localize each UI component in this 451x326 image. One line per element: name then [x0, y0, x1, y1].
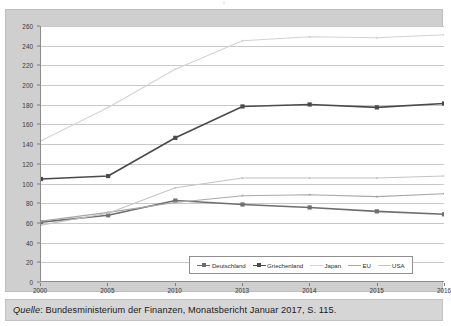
- series-marker: [443, 34, 444, 36]
- series-marker: [41, 177, 43, 181]
- legend-label: USA: [392, 262, 405, 269]
- x-axis-tick-label: 2014: [302, 287, 316, 294]
- caption-source-label: Quelle: [13, 305, 40, 315]
- series-marker: [107, 107, 109, 109]
- series-marker: [376, 177, 378, 179]
- plot-area: [40, 26, 444, 282]
- x-axis-tick-mark: [309, 283, 310, 286]
- x-axis-tick-label: 2000: [33, 287, 47, 294]
- y-axis-tick-label: 160: [22, 121, 33, 128]
- x-axis-tick-mark: [107, 283, 108, 286]
- series-marker: [240, 202, 244, 206]
- y-axis-tick-label: 240: [22, 42, 33, 49]
- y-axis-tick-label: 60: [26, 219, 33, 226]
- y-axis-tick-label: 100: [22, 180, 33, 187]
- y-axis-tick-label: 180: [22, 101, 33, 108]
- chart-legend[interactable]: DeutschlandGriechenlandJapanEUUSA: [189, 256, 413, 274]
- legend-item-eu[interactable]: EU: [348, 262, 371, 269]
- series-marker: [442, 212, 444, 216]
- y-axis-tick-label: 0: [29, 279, 33, 286]
- caption-text: Quelle: Bundesministerium der Finanzen, …: [6, 305, 336, 315]
- x-axis-tick-label: 2010: [168, 287, 182, 294]
- series-marker: [173, 136, 177, 140]
- figure-panel: Staatsschuldenquoten in % 02040608010012…: [5, 9, 443, 292]
- caption-strip: Quelle: Bundesministerium der Finanzen, …: [5, 299, 443, 321]
- x-axis-tick-label: 2015: [370, 287, 384, 294]
- series-marker: [442, 101, 444, 105]
- series-marker: [242, 177, 244, 179]
- series-marker: [174, 202, 176, 204]
- y-axis-tick-label: 200: [22, 82, 33, 89]
- series-usa: [41, 175, 444, 226]
- top-tick-mark: [224, 1, 225, 5]
- series-marker: [106, 174, 110, 178]
- legend-item-usa[interactable]: USA: [378, 262, 405, 269]
- series-griechenland: [41, 101, 444, 181]
- x-axis-tick-mark: [242, 283, 243, 286]
- legend-item-japan[interactable]: Japan: [310, 262, 341, 269]
- series-marker: [41, 224, 42, 226]
- series-line: [41, 176, 444, 225]
- x-axis-tick-mark: [40, 283, 41, 286]
- legend-item-griechenland[interactable]: Griechenland: [253, 262, 304, 269]
- series-line: [41, 35, 444, 141]
- y-axis-tick-label: 220: [22, 62, 33, 69]
- y-axis-tick-label: 20: [26, 259, 33, 266]
- series-deutschland: [41, 198, 444, 224]
- legend-swatch-icon: [378, 262, 391, 269]
- series-line: [41, 103, 444, 179]
- y-axis-tick-label: 80: [26, 200, 33, 207]
- x-axis-tick-label: 2016: [437, 287, 451, 294]
- series-layer: [41, 26, 444, 281]
- series-marker: [308, 205, 312, 209]
- series-marker: [41, 140, 42, 142]
- legend-swatch-icon: [310, 262, 323, 269]
- series-marker: [240, 104, 244, 108]
- y-axis-tick-label: 120: [22, 160, 33, 167]
- legend-label: Deutschland: [212, 262, 246, 269]
- series-marker: [443, 175, 444, 177]
- legend-swatch-icon: [197, 262, 210, 269]
- x-axis-tick-mark: [444, 283, 445, 286]
- legend-label: Griechenland: [267, 262, 303, 269]
- series-marker: [309, 194, 311, 196]
- series-marker: [443, 193, 444, 195]
- caption-source-text: : Bundesministerium der Finanzen, Monats…: [40, 305, 336, 315]
- series-marker: [375, 209, 379, 213]
- series-marker: [242, 195, 244, 197]
- x-axis-tick-label: 2013: [235, 287, 249, 294]
- legend-label: Japan: [325, 262, 342, 269]
- series-marker: [41, 220, 42, 222]
- y-axis-tick-label: 40: [26, 239, 33, 246]
- series-marker: [309, 177, 311, 179]
- series-line: [41, 194, 444, 221]
- series-marker: [309, 36, 311, 38]
- series-marker: [174, 187, 176, 189]
- series-marker: [174, 68, 176, 70]
- series-marker: [375, 105, 379, 109]
- x-axis-tick-mark: [377, 283, 378, 286]
- series-marker: [308, 102, 312, 106]
- series-japan: [41, 34, 444, 142]
- x-axis-tick-mark: [175, 283, 176, 286]
- series-marker: [107, 212, 109, 214]
- series-eu: [41, 193, 444, 222]
- legend-label: EU: [362, 262, 370, 269]
- y-axis-tick-label: 140: [22, 141, 33, 148]
- legend-item-deutschland[interactable]: Deutschland: [197, 262, 245, 269]
- legend-swatch-icon: [348, 262, 361, 269]
- series-marker: [242, 40, 244, 42]
- series-marker: [376, 196, 378, 198]
- legend-swatch-icon: [253, 262, 266, 269]
- series-marker: [376, 37, 378, 39]
- y-axis-tick-label: 260: [22, 23, 33, 30]
- x-axis-tick-label: 2005: [100, 287, 114, 294]
